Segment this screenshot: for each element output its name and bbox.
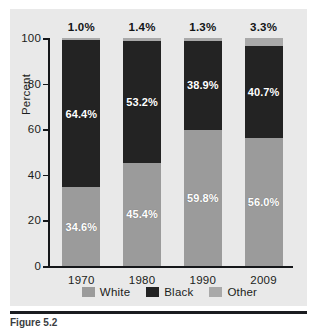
legend-item-black[interactable]: Black [146,286,193,298]
y-tick-mark [43,266,48,268]
x-axis-label-1970: 1970 [62,274,100,286]
y-tick-label: 40 [28,169,41,181]
bar-segment-label: 59.8% [187,192,219,204]
bar-segment-label: 64.4% [66,108,98,120]
bar-segment-black[interactable]: 64.4% [62,40,100,187]
bar-segment-black[interactable]: 40.7% [245,46,283,139]
y-tick-mark [43,84,48,86]
legend-item-other[interactable]: Other [209,286,257,298]
plot-area: 020406080100 34.6%64.4%1.0%45.4%53.2%1.4… [48,38,291,266]
bar-segment-other[interactable] [184,38,222,41]
bar-stack: 56.0%40.7% [245,38,283,266]
bar-segment-black[interactable]: 38.9% [184,41,222,130]
y-tick-label: 60 [28,123,41,135]
bar-stack: 45.4%53.2% [123,38,161,266]
y-tick-label: 100 [21,32,41,44]
y-axis-line [48,38,50,267]
bar-segment-white[interactable]: 45.4% [123,163,161,267]
x-axis-label-2009: 2009 [245,274,283,286]
y-tick-mark [43,175,48,177]
bar-segment-white[interactable]: 34.6% [62,187,100,266]
chart-legend: WhiteBlackOther [48,286,291,298]
bar-segment-other[interactable] [123,38,161,41]
bar-top-label: 1.4% [123,21,161,33]
bar-group[interactable]: 59.8%38.9%1.3% [184,38,222,266]
bar-group[interactable]: 45.4%53.2%1.4% [123,38,161,266]
legend-label: Black [164,286,193,298]
bar-group[interactable]: 34.6%64.4%1.0% [62,38,100,266]
legend-swatch-icon [209,287,222,297]
bar-segment-label: 38.9% [187,79,219,91]
y-tick-label: 0 [34,260,41,272]
bar-segment-other[interactable] [245,38,283,46]
bar-segment-label: 40.7% [248,86,280,98]
caption-divider [10,311,307,314]
y-tick-mark [43,38,48,40]
bar-segment-label: 34.6% [66,221,98,233]
bar-segment-black[interactable]: 53.2% [123,41,161,162]
legend-item-white[interactable]: White [82,286,130,298]
legend-swatch-icon [146,287,159,297]
y-tick-mark [43,129,48,131]
legend-label: Other [227,286,257,298]
bar-segment-label: 45.4% [126,208,158,220]
bar-top-label: 1.0% [62,21,100,33]
bar-group[interactable]: 56.0%40.7%3.3% [245,38,283,266]
x-axis-line [48,266,293,268]
chart-panel: Percent 020406080100 34.6%64.4%1.0%45.4%… [10,9,307,306]
bar-segment-white[interactable]: 56.0% [245,138,283,266]
bar-segment-label: 53.2% [126,96,158,108]
bar-top-label: 1.3% [184,21,222,33]
bar-stack: 34.6%64.4% [62,38,100,266]
bar-stack: 59.8%38.9% [184,38,222,266]
figure-caption: Figure 5.2 [10,317,310,328]
y-tick-label: 80 [28,78,41,90]
bar-segment-other[interactable] [62,38,100,40]
bar-segment-label: 56.0% [248,196,280,208]
x-axis-label-1980: 1980 [123,274,161,286]
legend-swatch-icon [82,287,95,297]
legend-label: White [100,286,130,298]
caption-number: 5.2 [43,317,57,328]
bar-segment-white[interactable]: 59.8% [184,130,222,266]
y-tick-label: 20 [28,214,41,226]
bar-top-label: 3.3% [245,21,283,33]
y-tick-mark [43,220,48,222]
x-axis-label-1990: 1990 [184,274,222,286]
caption-prefix: Figure [10,317,41,328]
